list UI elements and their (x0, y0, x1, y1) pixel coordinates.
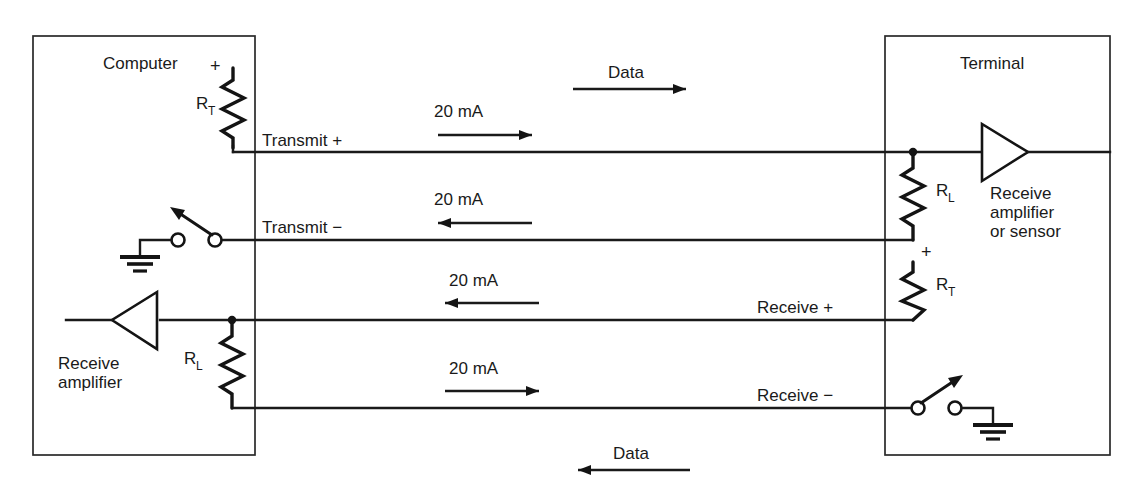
terminal-rt-symbol: R (936, 275, 948, 294)
terminal-amp-label-line2: amplifier (990, 203, 1055, 222)
transmit-plus-current-arrow (438, 130, 532, 140)
circuit-diagram-canvas: Computer Terminal Data R T + Transmit + … (0, 0, 1132, 494)
receive-plus-label: Receive + (757, 298, 833, 317)
computer-transmit-switch[interactable] (170, 207, 222, 247)
computer-receive-amplifier: Receive amplifier (58, 292, 157, 392)
transmit-minus-current-arrow (438, 218, 532, 228)
computer-switch-pole-left[interactable] (172, 234, 185, 247)
receive-plus-line: + R T Receive amplifier Receive + 20 mA (58, 242, 956, 392)
terminal-box (885, 36, 1110, 455)
data-flow-bottom-arrowhead (578, 465, 591, 475)
receive-plus-current-arrow (445, 298, 539, 308)
data-flow-top-arrowhead (673, 84, 686, 94)
computer-rt-resistor: R T + (196, 56, 244, 152)
terminal-ground (962, 408, 1013, 439)
terminal-rl-symbol: R (936, 181, 948, 200)
terminal-amp-label-line3: or sensor (990, 222, 1061, 241)
circuit-diagram-svg: Computer Terminal Data R T + Transmit + … (0, 0, 1132, 494)
transmit-minus-label: Transmit − (262, 218, 342, 237)
computer-rl-resistor: R L (184, 324, 243, 408)
transmit-minus-line: R L Transmit − 20 mA (120, 156, 955, 271)
receive-minus-label: Receive − (757, 386, 833, 405)
computer-box-label: Computer (103, 54, 178, 73)
terminal-rt-subscript: T (948, 285, 956, 299)
receive-minus-current: 20 mA (449, 359, 499, 378)
computer-rl-symbol: R (184, 349, 196, 368)
computer-switch-blade-arrowhead (170, 207, 185, 220)
terminal-switch-pole-right[interactable] (949, 402, 962, 415)
receive-minus-line: R L Receive − 20 mA (184, 324, 1013, 439)
terminal-rt-polarity: + (921, 242, 932, 262)
transmit-plus-line: R T + Transmit + 20 mA Receive amplifier… (196, 56, 1110, 241)
computer-box (33, 36, 255, 455)
computer-amp-label-line2: amplifier (58, 373, 123, 392)
terminal-amp-label-line1: Receive (990, 184, 1051, 203)
transmit-minus-current: 20 mA (434, 190, 484, 209)
terminal-switch-blade-arrowhead (948, 375, 963, 388)
terminal-rl-resistor: R L (902, 156, 955, 240)
terminal-rl-subscript: L (948, 191, 955, 205)
data-flow-bottom: Data (578, 444, 690, 475)
computer-rt-polarity: + (210, 56, 221, 76)
transmit-plus-current: 20 mA (434, 102, 484, 121)
transmit-plus-label: Transmit + (262, 131, 342, 150)
computer-ground (120, 240, 171, 271)
terminal-ground-lead (962, 408, 993, 424)
terminal-rt-resistor: + R T (902, 242, 956, 320)
data-flow-bottom-label: Data (613, 444, 649, 463)
computer-rt-subscript: T (208, 104, 216, 118)
terminal-receive-switch[interactable] (912, 375, 964, 415)
computer-ground-lead (140, 240, 171, 256)
terminal-box-label: Terminal (960, 54, 1024, 73)
computer-rl-subscript: L (196, 359, 203, 373)
data-flow-top-label: Data (608, 63, 644, 82)
computer-amp-label-line1: Receive (58, 354, 119, 373)
computer-rt-symbol: R (196, 94, 208, 113)
terminal-receive-amplifier: Receive amplifier or sensor (982, 124, 1110, 241)
data-flow-top: Data (573, 63, 686, 94)
receive-minus-current-arrow (445, 386, 539, 396)
receive-plus-current: 20 mA (449, 271, 499, 290)
